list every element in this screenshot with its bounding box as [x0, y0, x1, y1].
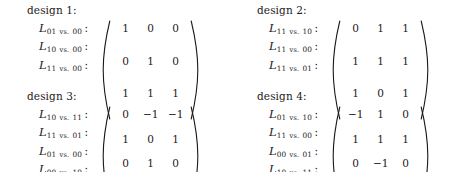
contrast-label-list: L11 vs. 10:L11 vs. 00:L11 vs. 01: [257, 19, 318, 76]
contrast-label-list: L01 vs. 00:L10 vs. 00:L11 vs. 00: [27, 19, 88, 76]
design-body: L10 vs. 11:L11 vs. 01:L01 vs. 00:L00 vs.… [27, 105, 230, 172]
contrast-subscript-second: 00 [302, 45, 312, 54]
contrast-colon: : [85, 126, 89, 138]
contrast-versus-text: vs. [60, 65, 70, 73]
matrix-cell: 0 [393, 107, 418, 132]
contrast-symbol: L [39, 125, 47, 139]
matrix-cells: −1101110−100−1−1 [341, 106, 420, 172]
matrix-cell: −1 [343, 107, 368, 132]
contrast-symbol: L [269, 58, 277, 72]
contrast-label: L00 vs. 10: [39, 162, 88, 172]
contrast-colon: : [315, 145, 319, 157]
matrix-cell: 0 [138, 21, 163, 54]
contrast-subscript-second: 10 [302, 27, 312, 36]
contrast-colon: : [85, 163, 89, 172]
contrast-subscript-second: 00 [72, 45, 82, 54]
design-title: design 1: [27, 4, 230, 17]
matrix-cell: 0 [343, 21, 368, 54]
matrix-cell: 0 [113, 107, 138, 132]
matrix-cell: 1 [343, 132, 368, 157]
contrast-label: L10 vs. 11: [39, 107, 88, 125]
matrix-cell: 1 [113, 21, 138, 54]
contrast-symbol: L [269, 39, 277, 53]
matrix-cell: −1 [368, 156, 393, 172]
contrast-colon: : [315, 40, 319, 52]
matrix-cell: 1 [393, 54, 418, 87]
contrast-label: L11 vs. 01: [269, 58, 318, 76]
contrast-versus-text: vs. [290, 65, 300, 73]
contrast-subscript-second: 01 [302, 150, 312, 159]
contrast-subscript-first: 11 [47, 64, 57, 73]
matrix-cell: 0 [343, 156, 368, 172]
design-grid: design 1:L01 vs. 00:L10 vs. 00:L11 vs. 0… [0, 0, 461, 172]
contrast-versus-text: vs. [290, 132, 300, 140]
contrast-subscript-second: 01 [302, 64, 312, 73]
contrast-versus-text: vs. [60, 132, 70, 140]
contrast-symbol: L [39, 107, 47, 121]
design-block: design 3:L10 vs. 11:L11 vs. 01:L01 vs. 0… [0, 86, 230, 172]
matrix-cell: 1 [113, 132, 138, 157]
contrast-label: L11 vs. 01: [39, 125, 88, 143]
contrast-colon: : [85, 22, 89, 34]
contrast-colon: : [85, 108, 89, 120]
design-block: design 1:L01 vs. 00:L10 vs. 00:L11 vs. 0… [0, 0, 230, 86]
contrast-label: L00 vs. 01: [269, 144, 318, 162]
contrast-subscript-second: 00 [72, 64, 82, 73]
contrast-label: L11 vs. 00: [269, 39, 318, 57]
contrast-colon: : [315, 163, 319, 172]
contrast-colon: : [85, 40, 89, 52]
design-title: design 2: [257, 4, 461, 17]
matrix-cell: 0 [138, 132, 163, 157]
contrast-symbol: L [269, 144, 277, 158]
contrast-subscript-first: 11 [277, 45, 287, 54]
contrast-versus-text: vs. [290, 114, 300, 122]
contrast-versus-text: vs. [60, 114, 70, 122]
contrast-subscript-second: 00 [72, 150, 82, 159]
matrix-cell: 1 [368, 21, 393, 54]
contrast-symbol: L [269, 162, 277, 172]
matrix-cell: 0 [393, 156, 418, 172]
contrast-symbol: L [39, 39, 47, 53]
matrix-cell: 0 [113, 54, 138, 87]
right-parenthesis [420, 106, 429, 172]
contrast-label: L11 vs. 00: [269, 125, 318, 143]
contrast-subscript-second: 00 [302, 131, 312, 140]
design-matrix: −1101110−100−1−1 [332, 106, 429, 172]
matrix-cell: 1 [163, 132, 188, 157]
contrast-colon: : [315, 108, 319, 120]
contrast-subscript-first: 11 [277, 131, 287, 140]
matrix-cell: 1 [138, 54, 163, 87]
matrix-cell: 1 [343, 54, 368, 87]
contrast-subscript-first: 11 [277, 27, 287, 36]
contrast-symbol: L [269, 21, 277, 35]
right-parenthesis [190, 106, 199, 172]
matrix-cell: 1 [138, 156, 163, 172]
matrix-cell: 0 [113, 156, 138, 172]
contrast-subscript-first: 11 [277, 64, 287, 73]
contrast-colon: : [315, 59, 319, 71]
matrix-cells: 0−1−1101010−100 [111, 106, 190, 172]
contrast-colon: : [85, 59, 89, 71]
contrast-versus-text: vs. [60, 46, 70, 54]
contrast-subscript-first: 01 [277, 113, 287, 122]
contrast-symbol: L [39, 162, 47, 172]
contrast-subscript-first: 01 [47, 27, 57, 36]
matrix-cell: 1 [368, 107, 393, 132]
matrix-cell: 1 [368, 132, 393, 157]
contrast-subscript-second: 00 [72, 27, 82, 36]
contrast-label: L10 vs. 11: [269, 162, 318, 172]
matrix-cell: 0 [163, 21, 188, 54]
matrix-cell: −1 [138, 107, 163, 132]
contrast-subscript-second: 11 [302, 168, 312, 172]
contrast-subscript-first: 10 [47, 45, 57, 54]
contrast-subscript-second: 10 [72, 168, 82, 172]
contrast-symbol: L [269, 107, 277, 121]
contrast-versus-text: vs. [290, 169, 300, 172]
contrast-label: L10 vs. 00: [39, 39, 88, 57]
left-parenthesis [102, 106, 111, 172]
contrast-colon: : [315, 22, 319, 34]
contrast-subscript-first: 00 [277, 150, 287, 159]
matrix-cell: 0 [163, 54, 188, 87]
contrast-versus-text: vs. [290, 151, 300, 159]
design-matrix: 0−1−1101010−100 [102, 106, 199, 172]
